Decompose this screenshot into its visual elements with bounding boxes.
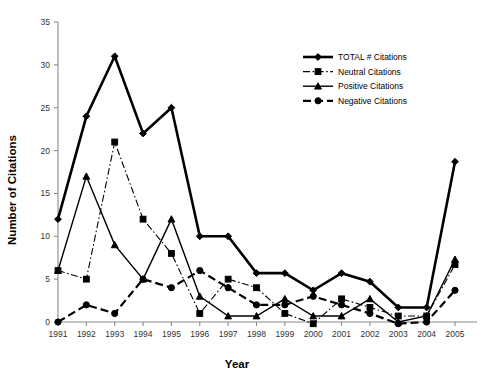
legend-item: Negative Citations <box>303 96 407 106</box>
data-point <box>169 251 175 257</box>
axis-lines <box>58 22 477 322</box>
y-tick-label: 0 <box>45 317 50 327</box>
data-point <box>196 233 203 240</box>
data-point <box>55 216 62 223</box>
data-point <box>83 173 90 179</box>
legend-marker <box>315 54 322 61</box>
x-tick-label: 2001 <box>332 329 351 339</box>
data-point <box>452 158 459 165</box>
data-point <box>140 216 146 222</box>
x-tick-label: 1996 <box>190 329 209 339</box>
y-tick-label: 35 <box>41 17 51 27</box>
x-tick-label: 1991 <box>49 329 68 339</box>
data-point <box>197 311 203 317</box>
data-point <box>55 319 61 325</box>
data-point <box>225 276 231 282</box>
y-tick-label: 25 <box>41 103 51 113</box>
x-tick-label: 2004 <box>417 329 436 339</box>
y-tick-label: 15 <box>41 188 51 198</box>
legend-label: Negative Citations <box>338 96 407 106</box>
data-point <box>395 321 401 327</box>
data-point <box>112 139 118 145</box>
x-tick-label: 2000 <box>304 329 323 339</box>
chart-canvas: 05101520253035 1991199219931994199519961… <box>0 0 486 374</box>
data-point <box>168 285 174 291</box>
series-neutral-citations <box>55 139 458 327</box>
data-point <box>452 287 458 293</box>
data-point <box>452 256 459 262</box>
x-axis-title: Year <box>225 358 250 370</box>
data-point <box>282 302 288 308</box>
data-point <box>254 285 260 291</box>
data-point <box>367 305 373 311</box>
x-tick-label: 1993 <box>105 329 124 339</box>
data-point <box>112 310 118 316</box>
data-point <box>111 241 118 247</box>
legend-label: TOTAL # Citations <box>338 52 407 62</box>
x-tick-label: 1998 <box>247 329 266 339</box>
data-point <box>225 285 231 291</box>
y-tick-label: 10 <box>41 231 51 241</box>
x-tick-label: 1995 <box>162 329 181 339</box>
data-point <box>424 319 430 325</box>
chart-legend: TOTAL # CitationsNeutral CitationsPositi… <box>303 52 407 106</box>
legend-label: Neutral Citations <box>338 67 401 77</box>
data-point <box>310 293 316 299</box>
x-tick-label: 2002 <box>360 329 379 339</box>
series-group <box>55 53 459 327</box>
citations-line-chart: 05101520253035 1991199219931994199519961… <box>0 0 486 374</box>
data-point <box>196 293 203 299</box>
x-tick-label: 1992 <box>77 329 96 339</box>
x-tick-label: 2005 <box>446 329 465 339</box>
x-tick-label: 1997 <box>219 329 238 339</box>
data-point <box>83 276 89 282</box>
data-point <box>168 216 175 222</box>
legend-label: Positive Citations <box>338 81 403 91</box>
data-point <box>83 302 89 308</box>
data-point <box>310 321 316 327</box>
series-total-citations <box>55 53 459 311</box>
y-tick-group: 05101520253035 <box>41 17 58 327</box>
data-point <box>197 267 203 273</box>
y-tick-label: 20 <box>41 146 51 156</box>
legend-item: TOTAL # Citations <box>303 52 407 62</box>
y-axis-title: Number of Citations <box>6 135 18 245</box>
series-line <box>58 142 455 324</box>
data-point <box>338 302 344 308</box>
axis-group <box>58 22 477 322</box>
y-tick-label: 30 <box>41 60 51 70</box>
x-tick-label: 1994 <box>134 329 153 339</box>
legend-item: Positive Citations <box>303 81 403 91</box>
data-point <box>282 311 288 317</box>
x-tick-label: 2003 <box>389 329 408 339</box>
legend-marker <box>315 98 321 104</box>
data-point <box>367 310 373 316</box>
data-point <box>140 276 146 282</box>
legend-item: Neutral Citations <box>303 67 401 77</box>
series-line <box>58 176 455 322</box>
x-tick-label: 1999 <box>275 329 294 339</box>
data-point <box>339 296 345 302</box>
legend-marker <box>315 69 321 75</box>
data-point <box>367 295 374 301</box>
y-tick-label: 5 <box>45 274 50 284</box>
data-point <box>253 302 259 308</box>
data-point <box>281 295 288 301</box>
